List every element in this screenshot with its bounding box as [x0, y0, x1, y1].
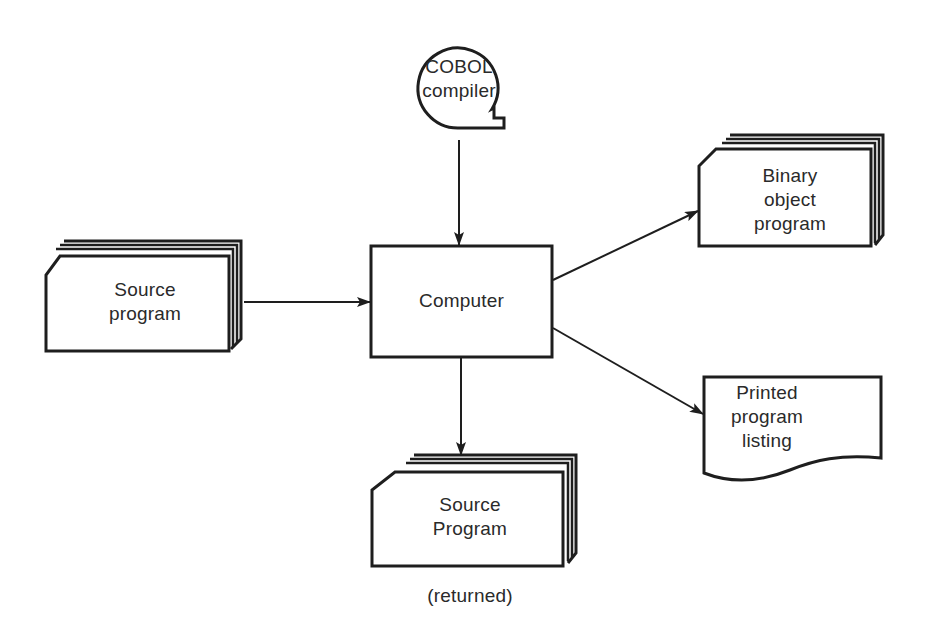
arrow-computer-to-binary	[553, 211, 698, 280]
source-program-line-2: program	[80, 302, 210, 326]
printed-program-listing-line-3: listing	[712, 429, 822, 453]
cobol-compiler-label: COBOL compiler	[414, 55, 504, 103]
source-program-returned-label: Source Program	[395, 493, 545, 541]
returned-caption-text: (returned)	[400, 584, 540, 608]
source-program-returned-line-1: Source	[395, 493, 545, 517]
source-program-returned-line-2: Program	[395, 517, 545, 541]
printed-program-listing-line-2: program	[712, 405, 822, 429]
computer-line-1: Computer	[371, 289, 552, 313]
cobol-compiler-line-2: compiler	[414, 79, 504, 103]
binary-object-program-line-2: object	[720, 188, 860, 212]
binary-object-program-line-3: program	[720, 212, 860, 236]
printed-program-listing-line-1: Printed	[712, 381, 822, 405]
binary-object-program-label: Binary object program	[720, 164, 860, 236]
source-program-line-1: Source	[80, 278, 210, 302]
returned-caption: (returned)	[400, 584, 540, 608]
arrow-computer-to-listing	[553, 328, 703, 414]
binary-object-program-line-1: Binary	[720, 164, 860, 188]
cobol-compiler-line-1: COBOL	[414, 55, 504, 79]
computer-label: Computer	[371, 289, 552, 313]
printed-program-listing-label: Printed program listing	[712, 381, 822, 453]
source-program-label: Source program	[80, 278, 210, 326]
